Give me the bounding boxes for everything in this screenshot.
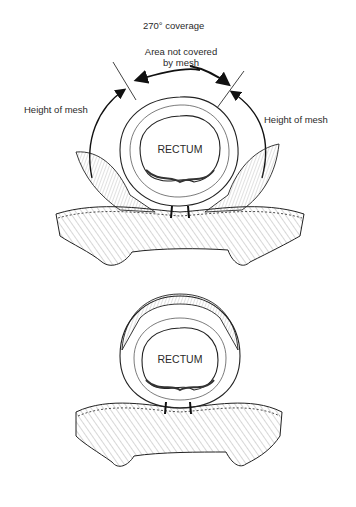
rectum-label-top: RECTUM xyxy=(158,143,203,155)
tissue-base-bottom xyxy=(76,403,282,466)
tissue-base-top xyxy=(56,207,304,266)
rectum-label-bottom: RECTUM xyxy=(158,353,203,365)
bottom-panel: RECTUM xyxy=(76,294,282,466)
anatomy-illustration: RECTUM RECTUM xyxy=(0,0,356,507)
top-panel: RECTUM xyxy=(56,62,304,265)
